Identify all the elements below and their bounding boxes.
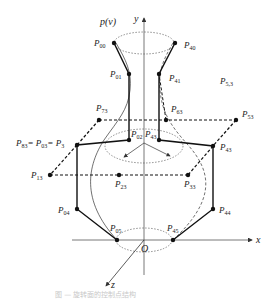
figure-caption: 图 — 旋转面的控制点结构 — [55, 290, 136, 299]
point-p03 — [75, 143, 79, 147]
label-p23: P23 — [114, 179, 127, 190]
label-p45: P45 — [166, 223, 179, 234]
label-p13: P13 — [30, 170, 43, 181]
label-p04: P04 — [57, 205, 70, 216]
y-axis-label: y — [133, 13, 139, 24]
dashed-net-right-bottom — [188, 146, 213, 175]
origin-label: O — [141, 243, 148, 254]
point-p43-inner — [157, 138, 161, 142]
label-p43: P43 — [219, 142, 232, 153]
middle-arrow-left — [124, 143, 144, 157]
label-p41: P41 — [168, 73, 181, 84]
label-p00: P00 — [93, 38, 106, 49]
point-p63 — [164, 118, 168, 122]
point-p33 — [186, 173, 190, 177]
point-p04 — [75, 207, 79, 211]
point-p05 — [115, 238, 119, 242]
point-p01 — [127, 72, 131, 76]
label-p05: P05 — [109, 223, 122, 234]
dashed-net-left-top — [77, 120, 99, 145]
point-p41 — [157, 72, 161, 76]
label-p44: P44 — [218, 205, 231, 216]
z-axis-label: z — [110, 279, 115, 290]
label-p40: P40 — [183, 40, 196, 51]
point-p13 — [48, 173, 52, 177]
dashed-p63-link — [159, 74, 166, 120]
point-p73 — [97, 118, 101, 122]
point-p40 — [173, 41, 177, 45]
point-p53 — [234, 118, 238, 122]
control-polygon-right — [159, 43, 213, 240]
curve-label: p(v) — [99, 16, 117, 28]
label-p53-faint: P5,3 — [219, 76, 233, 87]
point-p44 — [211, 207, 215, 211]
point-p00 — [112, 41, 116, 45]
point-p43 — [211, 144, 215, 148]
label-p01: P01 — [109, 69, 122, 80]
revolution-surface-diagram: y x z O p(v) P00 P40 P01 P41 P5,3 P73 P6… — [0, 0, 277, 299]
label-p33: P33 — [183, 179, 196, 190]
point-p23 — [117, 173, 121, 177]
label-p43-inner: P43 — [144, 129, 157, 140]
dashed-net-left-bottom — [50, 145, 77, 175]
point-p45 — [171, 238, 175, 242]
middle-arrow-right — [144, 143, 170, 156]
label-p02: P02 — [130, 129, 143, 140]
label-p63: P63 — [170, 104, 183, 115]
label-p83-p03-p3: P83= P03= P3 — [15, 138, 64, 149]
x-axis-label: x — [255, 234, 261, 245]
label-p53: P53 — [241, 109, 254, 120]
label-p73: P73 — [95, 103, 108, 114]
